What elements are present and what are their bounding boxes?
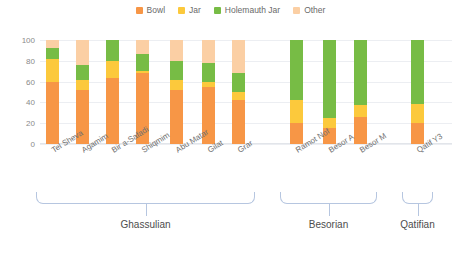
- gridline: [40, 82, 452, 83]
- y-axis-tick-label: 0: [31, 140, 35, 149]
- bar-segment[interactable]: [136, 40, 149, 54]
- bar-segment[interactable]: [76, 65, 89, 80]
- bar-segment[interactable]: [354, 105, 367, 117]
- legend-item[interactable]: Holemauth Jar: [214, 6, 280, 15]
- bar-segment[interactable]: [232, 100, 245, 144]
- legend-label: Holemauth Jar: [225, 6, 280, 15]
- legend-label: Jar: [189, 6, 201, 15]
- y-axis-tick-label: 40: [26, 98, 35, 107]
- gridline: [40, 61, 452, 62]
- group-bracket-stem: [146, 204, 147, 216]
- group-bracket: [36, 192, 255, 204]
- bar-segment[interactable]: [46, 40, 59, 48]
- bar-segment[interactable]: [170, 90, 183, 144]
- bar-segment[interactable]: [411, 123, 424, 144]
- gridline: [40, 123, 452, 124]
- bar-segment[interactable]: [106, 78, 119, 144]
- stacked-bar[interactable]: [170, 40, 183, 144]
- legend-item[interactable]: Jar: [178, 6, 201, 15]
- y-axis-tick-label: 80: [26, 56, 35, 65]
- stacked-bar[interactable]: [46, 40, 59, 144]
- bar-segment[interactable]: [354, 117, 367, 144]
- group-bracket-stem: [418, 204, 419, 216]
- stacked-bar[interactable]: [232, 40, 245, 144]
- bar-segment[interactable]: [290, 100, 303, 123]
- stacked-bar[interactable]: [411, 40, 424, 144]
- legend-item[interactable]: Bowl: [136, 6, 165, 15]
- bar-segment[interactable]: [170, 61, 183, 80]
- bar-segment[interactable]: [290, 123, 303, 144]
- gridline: [40, 40, 452, 41]
- bar-segment[interactable]: [136, 54, 149, 72]
- bar-segment[interactable]: [76, 40, 89, 65]
- bar-segment[interactable]: [232, 73, 245, 92]
- bar-segment[interactable]: [76, 80, 89, 90]
- plot-area: 020406080100: [40, 40, 452, 144]
- chart-legend: BowlJarHolemauth JarOther: [0, 6, 461, 15]
- group-bracket: [280, 192, 377, 204]
- legend-swatch-icon: [178, 7, 185, 14]
- bar-segment[interactable]: [170, 40, 183, 61]
- bar-segment[interactable]: [170, 80, 183, 90]
- legend-swatch-icon: [214, 7, 221, 14]
- y-axis-tick-label: 60: [26, 77, 35, 86]
- legend-swatch-icon: [293, 7, 300, 14]
- legend-label: Other: [304, 6, 325, 15]
- bar-segment[interactable]: [46, 82, 59, 144]
- stacked-bar[interactable]: [290, 40, 303, 144]
- bar-segment[interactable]: [411, 40, 424, 104]
- legend-swatch-icon: [136, 7, 143, 14]
- bar-segment[interactable]: [290, 40, 303, 100]
- group-label: Ghassulian: [120, 219, 170, 230]
- group-bracket: [402, 192, 433, 204]
- bar-segment[interactable]: [202, 63, 215, 82]
- y-axis-tick-label: 20: [26, 119, 35, 128]
- bar-segment[interactable]: [106, 40, 119, 61]
- bar-segment[interactable]: [46, 59, 59, 82]
- bar-segment[interactable]: [232, 40, 245, 73]
- bar-segment[interactable]: [46, 48, 59, 58]
- group-bracket-stem: [329, 204, 330, 216]
- bar-segment[interactable]: [323, 40, 336, 118]
- stacked-bar[interactable]: [106, 40, 119, 144]
- bar-segment[interactable]: [232, 92, 245, 100]
- legend-item[interactable]: Other: [293, 6, 325, 15]
- chart-container: BowlJarHolemauth JarOther 020406080100 T…: [0, 0, 461, 257]
- group-label: Besorian: [309, 219, 348, 230]
- stacked-bar[interactable]: [354, 40, 367, 144]
- bar-segment[interactable]: [354, 40, 367, 104]
- bar-segment[interactable]: [202, 40, 215, 63]
- legend-label: Bowl: [147, 6, 165, 15]
- group-label: Qatifian: [400, 219, 434, 230]
- bar-segment[interactable]: [411, 104, 424, 123]
- y-axis-tick-label: 100: [22, 36, 35, 45]
- gridline: [40, 102, 452, 103]
- bar-segment[interactable]: [106, 61, 119, 79]
